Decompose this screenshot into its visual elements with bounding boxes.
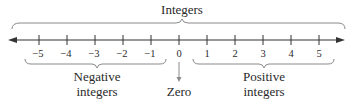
zero-pointer-arrow-icon [177,77,182,82]
positive-integers-label-line1: Positive [243,69,285,84]
negative-integers-brace [25,59,166,68]
left-arrow-icon [8,37,17,43]
tick-label: −4 [60,48,72,59]
tick-label: −1 [144,48,155,59]
tick-label: 5 [316,48,321,59]
negative-integers-label-line2: integers [76,84,117,99]
tick-label: 4 [288,48,294,59]
positive-integers-brace [193,59,334,68]
tick-label: 1 [204,48,209,59]
tick-label: 0 [176,48,181,59]
integers-brace [12,19,345,29]
tick-label: −2 [116,48,127,59]
tick-label: 3 [260,48,265,59]
tick-labels: −5 −4 −3 −2 −1 0 1 2 3 4 5 [32,48,321,59]
negative-integers-label-line1: Negative [74,69,121,84]
integers-title: Integers [161,2,203,17]
zero-label: Zero [167,84,192,99]
number-line: −5 −4 −3 −2 −1 0 1 2 3 4 5 [8,35,345,59]
tick-label: 2 [232,48,237,59]
right-arrow-icon [336,37,345,43]
positive-integers-label-line2: integers [243,84,284,99]
tick-label: −5 [32,48,43,59]
tick-label: −3 [88,48,99,59]
integer-number-line-diagram: Integers −5 −4 −3 −2 −1 0 1 2 [0,0,352,101]
